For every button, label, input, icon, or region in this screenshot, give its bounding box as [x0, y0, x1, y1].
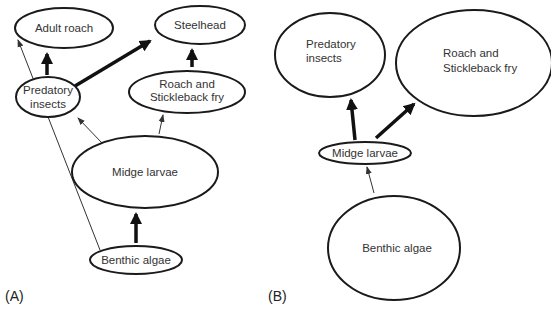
edge-algae-to-midge-b — [367, 167, 374, 193]
food-web-diagram: Adult roach Steelhead Predatory insects … — [0, 0, 551, 310]
svg-text:Roach and: Roach and — [443, 47, 499, 59]
node-midge-larvae-b: Midge larvae — [319, 142, 411, 164]
node-predatory-insects-b: Predatory insects — [275, 13, 385, 97]
svg-text:Midge larvae: Midge larvae — [332, 147, 398, 159]
svg-text:Benthic algae: Benthic algae — [362, 242, 432, 254]
svg-text:Midge larvae: Midge larvae — [112, 166, 178, 178]
svg-text:insects: insects — [30, 98, 66, 110]
panel-a: Adult roach Steelhead Predatory insects … — [5, 6, 245, 304]
svg-text:Benthic algae: Benthic algae — [101, 254, 171, 266]
svg-text:Adult roach: Adult roach — [35, 22, 93, 34]
svg-text:Stickleback fry: Stickleback fry — [443, 62, 517, 74]
svg-text:Predatory: Predatory — [306, 38, 356, 50]
edge-midge-to-predatory — [78, 118, 102, 143]
panel-a-label: (A) — [5, 288, 24, 304]
node-adult-roach: Adult roach — [15, 8, 113, 48]
edge-midge-to-roach-fry-b — [376, 104, 414, 138]
panel-b-label: (B) — [268, 288, 287, 304]
svg-text:Stickleback fry: Stickleback fry — [150, 91, 224, 103]
node-roach-stickleback-fry: Roach and Stickleback fry — [129, 71, 245, 113]
node-benthic-algae: Benthic algae — [90, 246, 182, 274]
svg-text:Predatory: Predatory — [23, 84, 73, 96]
node-predatory-insects: Predatory insects — [16, 77, 80, 117]
panel-b: Predatory insects Roach and Stickleback … — [268, 10, 551, 304]
svg-text:Steelhead: Steelhead — [174, 19, 226, 31]
node-steelhead: Steelhead — [155, 6, 245, 44]
svg-text:Roach and: Roach and — [159, 78, 215, 90]
node-midge-larvae: Midge larvae — [72, 136, 218, 208]
edge-midge-to-predatory-b — [351, 100, 355, 140]
node-roach-stickleback-fry-b: Roach and Stickleback fry — [396, 10, 551, 116]
edge-midge-to-roach-fry — [159, 115, 163, 134]
edge-algae-to-adult-roach — [18, 40, 100, 250]
svg-text:insects: insects — [306, 52, 342, 64]
node-benthic-algae-b: Benthic algae — [328, 196, 460, 300]
